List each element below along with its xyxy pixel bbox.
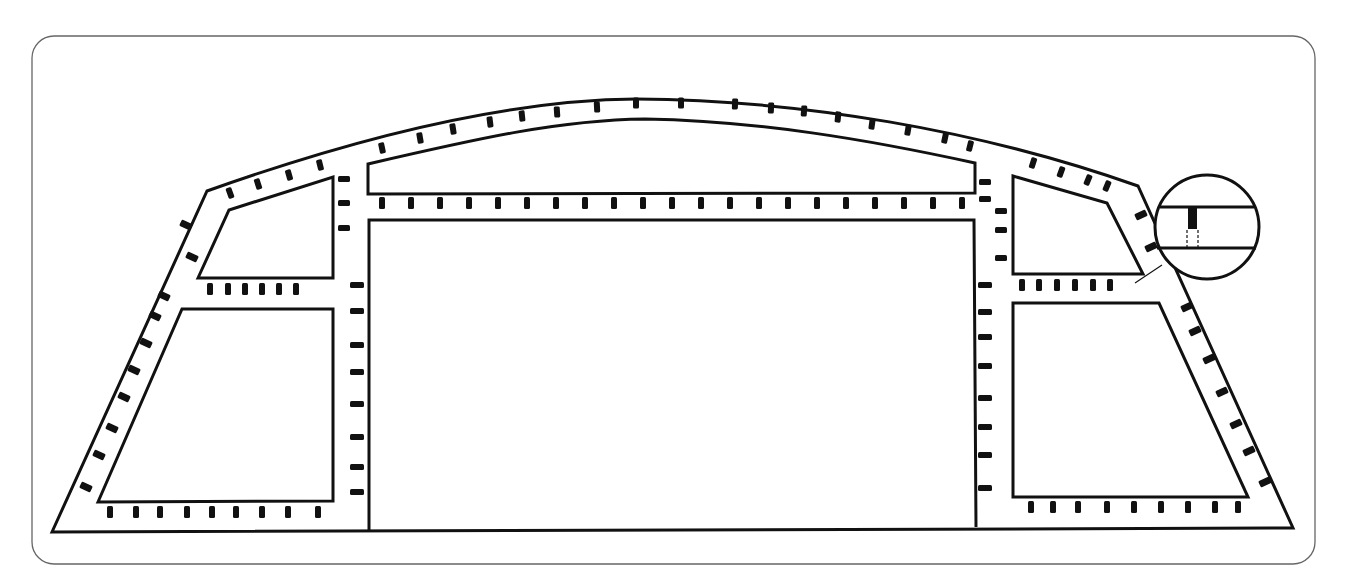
detail-callout <box>1155 175 1259 279</box>
fastener-icon <box>1188 207 1197 229</box>
diagram-canvas <box>0 0 1349 585</box>
figure-frame <box>32 36 1315 564</box>
